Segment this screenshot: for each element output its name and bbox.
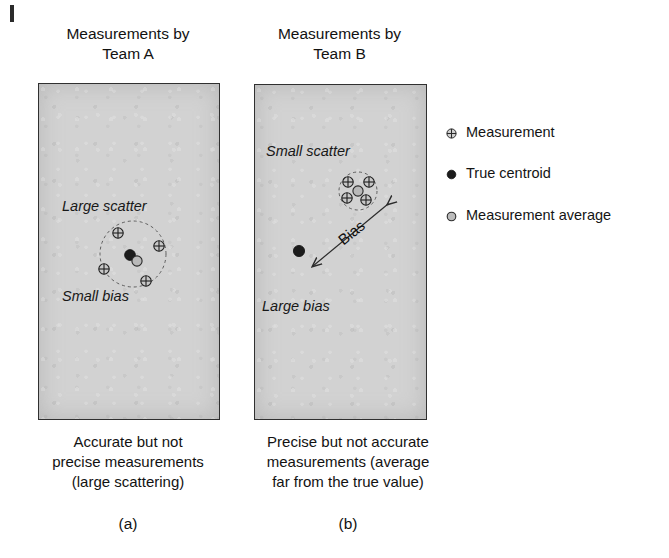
panel-b-top-label: Small scatter (266, 143, 350, 159)
legend-label-true-centroid: True centroid (466, 165, 551, 181)
panel-b-letter: (b) (318, 515, 378, 533)
panel-a-bottom-label: Small bias (62, 288, 129, 304)
page-margin-mark (10, 5, 14, 22)
panel-b-plot-area (254, 84, 427, 420)
legend: Measurement True centroid Measurement av… (445, 120, 660, 230)
legend-label-measurement: Measurement (466, 124, 555, 140)
accuracy-precision-figure: Measurements by Team A Large scatter Sma… (0, 0, 669, 558)
legend-item-measurement-average: Measurement average (445, 207, 611, 223)
panel-a-letter: (a) (98, 515, 158, 533)
circle-plus-icon (445, 126, 458, 139)
panel-a-plot-area (38, 83, 220, 420)
panel-b-caption: Precise but not accurate measurements (a… (232, 432, 464, 492)
legend-item-true-centroid: True centroid (445, 165, 551, 181)
panel-a-header: Measurements by Team A (38, 24, 218, 64)
panel-a-caption: Accurate but not precise measurements (l… (18, 432, 238, 492)
panel-a-top-label: Large scatter (62, 198, 147, 214)
panel-b-bottom-label: Large bias (262, 298, 330, 314)
hollow-gray-dot-icon (445, 209, 458, 222)
filled-dot-icon (445, 167, 458, 180)
legend-label-measurement-average: Measurement average (466, 207, 611, 223)
legend-item-measurement: Measurement (445, 124, 555, 140)
panel-b-header: Measurements by Team B (254, 24, 425, 64)
